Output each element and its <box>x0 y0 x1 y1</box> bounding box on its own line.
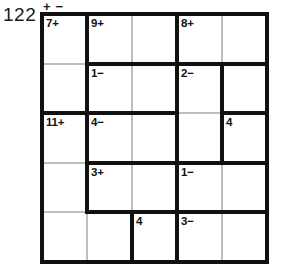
cage-edge-v-r1c0 <box>40 12 44 66</box>
cage-edge-v-r4c5 <box>265 161 269 215</box>
cage-edge-v-r2c1 <box>85 62 89 116</box>
cage-edge-v-r1c1 <box>85 12 89 66</box>
grid-cell-r5c5[interactable] <box>222 212 267 262</box>
cage-edge-h-r1c5 <box>220 62 269 66</box>
grid-cell-r4c2[interactable] <box>87 163 132 213</box>
grid-cell-r1c3[interactable] <box>132 14 177 64</box>
grid-cell-r4c1[interactable] <box>42 163 87 213</box>
grid-cell-r2c3[interactable] <box>132 64 177 114</box>
grid-cell-r3c2[interactable] <box>87 113 132 163</box>
cage-edge-h-r2c5 <box>220 111 269 115</box>
cage-edge-v-r3c4 <box>220 111 224 165</box>
cage-edge-v-r2c5 <box>265 62 269 116</box>
cage-edge-h-r0c4 <box>175 12 224 16</box>
cage-edge-h-r4c4 <box>175 210 224 214</box>
cage-edge-v-r1c3 <box>175 12 179 66</box>
grid-cell-r1c4[interactable] <box>177 14 222 64</box>
cage-edge-h-r2c3 <box>130 111 179 115</box>
cage-edge-v-r3c5 <box>265 111 269 165</box>
grid-cell-r2c1[interactable] <box>42 64 87 114</box>
grid-cell-r5c4[interactable] <box>177 212 222 262</box>
grid-cell-r2c5[interactable] <box>222 64 267 114</box>
cage-edge-h-r3c3 <box>130 161 179 165</box>
grid-cell-r2c2[interactable] <box>87 64 132 114</box>
cage-edge-h-r0c2 <box>85 12 134 16</box>
cage-edge-v-r4c0 <box>40 161 44 215</box>
cage-edge-v-r2c0 <box>40 62 44 116</box>
cage-edge-h-r1c3 <box>130 62 179 66</box>
cage-edge-h-r0c3 <box>130 12 179 16</box>
cage-edge-h-r3c4 <box>175 161 224 165</box>
grid-cell-r3c4[interactable] <box>177 113 222 163</box>
grid-cell-r2c4[interactable] <box>177 64 222 114</box>
cage-edge-v-r5c0 <box>40 210 44 264</box>
grid-cell-r1c2[interactable] <box>87 14 132 64</box>
cage-edge-v-r3c1 <box>85 111 89 165</box>
cage-edge-h-r0c1 <box>40 12 89 16</box>
cage-edge-v-r5c3 <box>175 210 179 264</box>
grid-cell-r5c1[interactable] <box>42 212 87 262</box>
cage-edge-h-r4c2 <box>85 210 134 214</box>
cage-edge-h-r5c5 <box>220 260 269 264</box>
grid-cell-r1c1[interactable] <box>42 14 87 64</box>
cage-edge-v-r1c5 <box>265 12 269 66</box>
cage-edge-h-r3c2 <box>85 161 134 165</box>
cage-edge-h-r0c5 <box>220 12 269 16</box>
cage-edge-v-r2c4 <box>220 62 224 116</box>
kenken-grid[interactable]: 7+9+8+1−2−11+4−43+1−43− <box>42 14 267 262</box>
cage-edge-h-r5c4 <box>175 260 224 264</box>
cage-edge-h-r3c5 <box>220 161 269 165</box>
puzzle-number: 122 <box>3 5 36 24</box>
grid-cell-r3c1[interactable] <box>42 113 87 163</box>
grid-cell-r5c2[interactable] <box>87 212 132 262</box>
cage-edge-h-r5c2 <box>85 260 134 264</box>
cage-edge-h-r2c1 <box>40 111 89 115</box>
cage-edge-v-r5c2 <box>130 210 134 264</box>
cage-edge-v-r5c5 <box>265 210 269 264</box>
grid-cell-r4c3[interactable] <box>132 163 177 213</box>
cage-edge-v-r3c3 <box>175 111 179 165</box>
cage-edge-h-r1c2 <box>85 62 134 66</box>
grid-cell-r5c3[interactable] <box>132 212 177 262</box>
cage-edge-h-r2c2 <box>85 111 134 115</box>
cage-edge-v-r2c3 <box>175 62 179 116</box>
cage-edge-v-r3c0 <box>40 111 44 165</box>
grid-cells-container: 7+9+8+1−2−11+4−43+1−43− <box>42 14 267 262</box>
cage-edge-v-r4c1 <box>85 161 89 215</box>
grid-cell-r4c5[interactable] <box>222 163 267 213</box>
cage-edge-h-r4c5 <box>220 210 269 214</box>
cage-edge-h-r4c3 <box>130 210 179 214</box>
grid-cell-r3c3[interactable] <box>132 113 177 163</box>
cage-edge-h-r5c1 <box>40 260 89 264</box>
cage-edge-v-r4c3 <box>175 161 179 215</box>
grid-cell-r4c4[interactable] <box>177 163 222 213</box>
grid-cell-r1c5[interactable] <box>222 14 267 64</box>
grid-cell-r3c5[interactable] <box>222 113 267 163</box>
cage-edge-h-r5c3 <box>130 260 179 264</box>
cage-edge-h-r1c4 <box>175 62 224 66</box>
